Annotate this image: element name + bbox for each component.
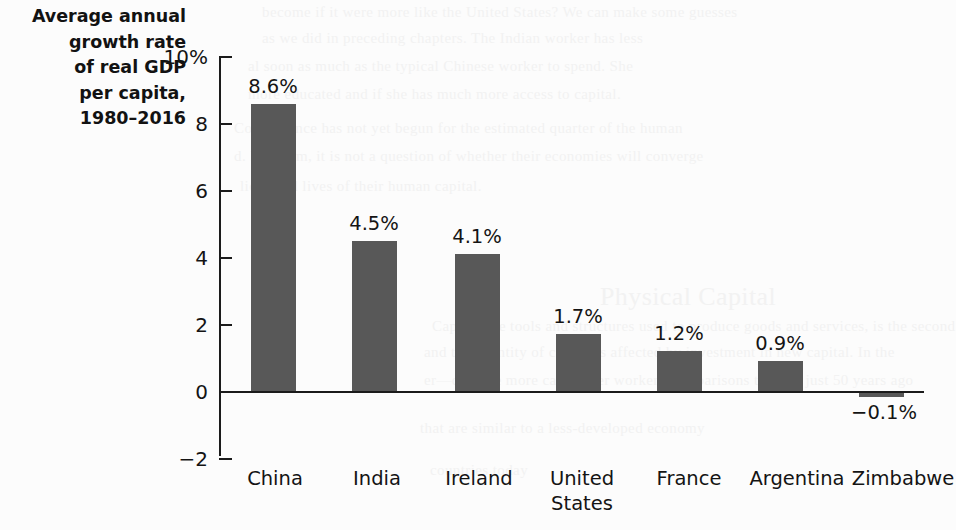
plot-area: 10% 8 6 4 2 0 −2 8.6% 4.5% 4.1% 1. [219,56,931,456]
chart-title-line-5: 1980–2016 [0,106,186,132]
bar-china [251,104,296,391]
category-label-ireland-line-1: Ireland [445,466,512,491]
bar-zimbabwe [859,393,904,397]
chart-title-line-4: per capita, [0,81,186,107]
y-tick-label-10: 10% [164,45,208,69]
y-tick-0: 0 [219,391,232,393]
bar-value-united-states: 1.7% [553,305,603,328]
category-label-ireland: Ireland [445,466,512,491]
y-tick-4: 4 [219,257,232,259]
chart-title-line-3: of real GDP [0,55,186,81]
bar-value-argentina: 0.9% [755,332,805,355]
category-label-zimbabwe: Zimbabwe [852,466,954,491]
y-axis-line [219,56,221,456]
bar-value-india: 4.5% [349,212,399,235]
category-label-argentina-line-1: Argentina [749,466,844,491]
bar-value-zimbabwe: −0.1% [851,401,917,424]
category-label-united-states-line-1: United [550,466,614,491]
bar-india [352,241,397,391]
category-label-china: China [247,466,303,491]
y-tick-minus-2: −2 [219,458,232,460]
y-tick-2: 2 [219,324,232,326]
bar-value-ireland: 4.1% [452,225,502,248]
y-tick-6: 6 [219,190,232,192]
bar-france [657,351,702,391]
category-label-france: France [657,466,722,491]
zero-baseline [219,391,924,393]
bar-value-france: 1.2% [654,322,704,345]
category-label-india-line-1: India [353,466,401,491]
category-label-france-line-1: France [657,466,722,491]
bar-argentina [758,361,803,391]
chart-title-line-2: growth rate [0,30,186,56]
category-label-india: India [353,466,401,491]
y-tick-label-8: 8 [195,112,208,136]
y-tick-label-2: 2 [195,313,208,337]
y-tick-label-6: 6 [195,179,208,203]
category-label-argentina: Argentina [749,466,844,491]
y-tick-label-4: 4 [195,246,208,270]
category-label-china-line-1: China [247,466,303,491]
y-tick-label-minus-2: −2 [179,447,208,471]
category-label-united-states: United States [550,466,614,516]
y-tick-10: 10% [219,56,232,58]
bar-ireland [455,254,500,391]
chart-title-line-1: Average annual [0,4,186,30]
category-label-united-states-line-2: States [550,491,614,516]
chart-title: Average annual growth rate of real GDP p… [0,4,186,132]
y-tick-8: 8 [219,123,232,125]
category-label-zimbabwe-line-1: Zimbabwe [852,466,954,491]
y-tick-label-0: 0 [195,380,208,404]
bar-value-china: 8.6% [248,75,298,98]
bar-united-states [556,334,601,391]
